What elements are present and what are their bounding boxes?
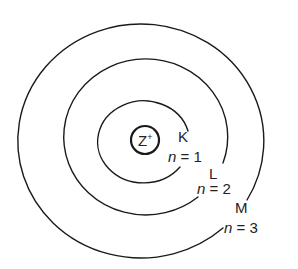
- shell-m-quantum-number: n = 3: [224, 219, 258, 236]
- shell-k-label: K: [178, 128, 188, 145]
- shell-k-quantum-number: n = 1: [168, 148, 202, 165]
- bohr-atom-diagram: Z+ K n = 1 L n = 2 M n = 3: [0, 0, 298, 269]
- shell-l-quantum-number: n = 2: [197, 180, 231, 197]
- shell-m-label: M: [235, 199, 248, 216]
- nucleus-label: Z+: [138, 132, 152, 149]
